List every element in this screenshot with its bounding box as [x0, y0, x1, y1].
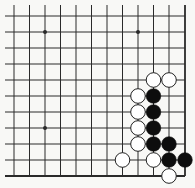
black-stone [162, 137, 177, 152]
black-stone [146, 89, 161, 104]
white-stone [131, 121, 146, 136]
black-stone [146, 105, 161, 120]
white-stone [115, 153, 130, 168]
black-stone [146, 121, 161, 136]
black-stone [178, 153, 193, 168]
white-stone [131, 137, 146, 152]
white-stone [162, 169, 177, 184]
go-board [0, 0, 195, 188]
white-stone [146, 73, 161, 88]
black-stone [146, 137, 161, 152]
white-stone [146, 153, 161, 168]
white-stone [131, 105, 146, 120]
star-point-icon [136, 30, 140, 34]
white-stone [131, 89, 146, 104]
star-point-icon [43, 30, 47, 34]
black-stone [162, 153, 177, 168]
star-point-icon [43, 126, 47, 130]
white-stone [162, 73, 177, 88]
